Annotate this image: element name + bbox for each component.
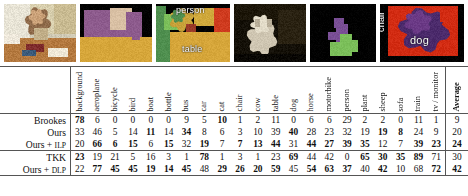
cell-value: 1 <box>249 151 267 164</box>
cell-value: 14 <box>160 163 178 176</box>
cell-value: 15 <box>160 138 178 151</box>
table-body: Brookes786000095101211066292201119Ours33… <box>0 114 468 176</box>
cell-value: 39 <box>267 126 285 138</box>
column-header-plant: plant <box>356 67 374 114</box>
segmentation-chair-dog: chair dog <box>380 4 464 62</box>
segmentation-dog-sparse <box>310 4 376 62</box>
cell-value: 3 <box>231 126 249 138</box>
row-label-suffix: ILP <box>55 141 66 150</box>
column-header-average: Average <box>446 67 468 114</box>
cell-value: 7 <box>231 138 249 151</box>
column-header-train: train <box>410 67 428 114</box>
column-header-horse: horse <box>302 67 320 114</box>
cell-value: 44 <box>302 138 320 151</box>
column-header-label: bicycle <box>111 65 119 111</box>
cell-value: 6 <box>106 138 124 151</box>
column-header-label: tv / monitor <box>432 65 440 111</box>
method-column-header <box>0 67 71 114</box>
cell-value: 65 <box>356 151 374 164</box>
cell-value: 44 <box>267 138 285 151</box>
input-photo-child <box>4 4 76 62</box>
cell-value: 45 <box>285 163 303 176</box>
cell-value: 19 <box>142 163 160 176</box>
cell-average: 42 <box>446 163 468 176</box>
cell-value: 26 <box>231 163 249 176</box>
cell-value: 54 <box>302 163 320 176</box>
cell-value: 11 <box>410 114 428 127</box>
cell-value: 71 <box>427 151 445 164</box>
cell-value: 32 <box>178 138 196 151</box>
table-header-row: backgroundaeroplanebicyclebirdboatbottle… <box>0 67 468 114</box>
column-header-boat: boat <box>142 67 160 114</box>
cell-value: 6 <box>142 138 160 151</box>
cell-average: 9 <box>446 114 468 127</box>
cell-value: 0 <box>142 114 160 127</box>
cell-value: 72 <box>427 163 445 176</box>
column-header-label: bottle <box>164 65 172 111</box>
column-header-label: sheep <box>378 65 386 111</box>
cell-value: 2 <box>374 114 392 127</box>
row-label-ours--dlp: Ours + DLP <box>0 163 71 176</box>
column-header-dog: dog <box>285 67 303 114</box>
cell-value: 2 <box>249 114 267 127</box>
cell-value: 34 <box>178 126 196 138</box>
cell-value: 19 <box>374 126 392 138</box>
table-row: Ours + DLP227745451914454829262059455463… <box>0 163 468 176</box>
column-header-label: background <box>75 65 83 111</box>
cell-value: 0 <box>106 114 124 127</box>
cell-value: 78 <box>71 114 89 127</box>
column-header-label: cow <box>253 65 261 111</box>
column-header-label: bus <box>182 65 190 111</box>
table-row: Brookes786000095101211066292201119 <box>0 114 468 127</box>
cell-value: 69 <box>285 151 303 164</box>
column-header-label: train <box>414 65 422 111</box>
cell-value: 28 <box>302 126 320 138</box>
column-header-cat: cat <box>213 67 231 114</box>
cell-value: 20 <box>249 163 267 176</box>
column-header-sheep: sheep <box>374 67 392 114</box>
column-header-label: Average <box>453 65 461 111</box>
cell-value: 29 <box>213 163 231 176</box>
column-header-label: person <box>343 65 351 111</box>
column-header-label: chair <box>236 65 244 111</box>
table-row: Ours334651411143486310394028233219198249… <box>0 126 468 138</box>
column-header-background: background <box>71 67 89 114</box>
column-header-cow: cow <box>249 67 267 114</box>
cell-value: 23 <box>427 138 445 151</box>
cell-value: 5 <box>195 114 213 127</box>
cell-value: 35 <box>392 151 410 164</box>
column-header-bus: bus <box>178 67 196 114</box>
cell-average: 30 <box>446 151 468 164</box>
column-header-bottle: bottle <box>160 67 178 114</box>
cell-value: 19 <box>195 138 213 151</box>
cell-value: 40 <box>285 126 303 138</box>
cell-value: 33 <box>71 126 89 138</box>
column-header-tv-monitor: tv / monitor <box>427 67 445 114</box>
column-header-chair: chair <box>231 67 249 114</box>
column-header-label: aeroplane <box>93 65 101 111</box>
cell-value: 7 <box>213 138 231 151</box>
cell-value: 14 <box>160 126 178 138</box>
cell-value: 66 <box>88 138 106 151</box>
cell-value: 6 <box>88 114 106 127</box>
cell-value: 31 <box>285 138 303 151</box>
cell-average: 24 <box>446 138 468 151</box>
cell-value: 0 <box>285 114 303 127</box>
image-strip: person table chair dog <box>0 0 468 66</box>
cell-value: 35 <box>356 138 374 151</box>
cell-value: 29 <box>338 114 356 127</box>
column-header-label: bird <box>129 65 137 111</box>
cell-value: 42 <box>374 163 392 176</box>
column-header-label: boat <box>146 65 154 111</box>
input-photo-dog-dark <box>234 4 306 62</box>
cell-value: 20 <box>71 138 89 151</box>
column-header-sofa: sofa <box>392 67 410 114</box>
cell-value: 32 <box>338 126 356 138</box>
cell-value: 6 <box>320 114 338 127</box>
cell-value: 77 <box>88 163 106 176</box>
cell-value: 3 <box>231 151 249 164</box>
cell-value: 45 <box>124 163 142 176</box>
cell-value: 23 <box>267 151 285 164</box>
row-label-suffix: DLP <box>52 166 66 175</box>
column-header-bicycle: bicycle <box>106 67 124 114</box>
